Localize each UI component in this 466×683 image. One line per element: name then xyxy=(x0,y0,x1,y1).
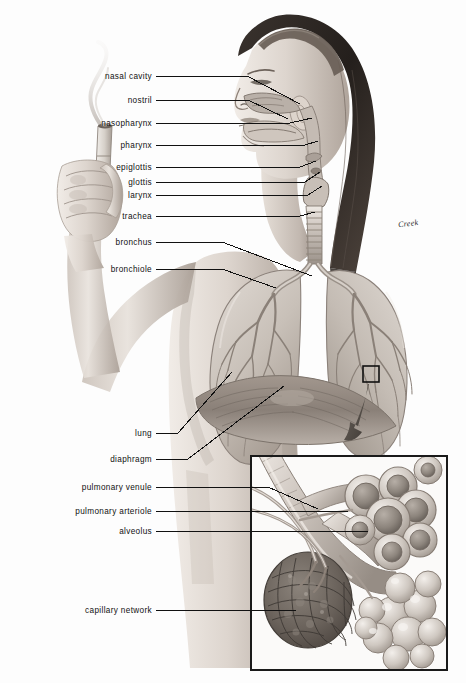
label-larynx: larynx xyxy=(128,191,152,200)
label-diaphragm: diaphragm xyxy=(110,455,152,464)
label-capillary-network: capillary network xyxy=(85,606,152,615)
label-nasal-cavity: nasal cavity xyxy=(105,72,152,81)
label-nostril: nostril xyxy=(128,96,152,105)
label-bronchus: bronchus xyxy=(116,238,152,247)
label-pulmonary-venule: pulmonary venule xyxy=(82,483,152,492)
label-pulmonary-arteriole: pulmonary arteriole xyxy=(75,507,152,516)
label-bronchiole: bronchiole xyxy=(111,265,152,274)
label-pharynx: pharynx xyxy=(120,141,152,150)
label-alveolus: alveolus xyxy=(119,527,152,536)
alveoli-detail-inset xyxy=(251,442,447,671)
label-trachea: trachea xyxy=(122,212,152,221)
label-lung: lung xyxy=(135,429,152,438)
label-nasopharynx: nasopharynx xyxy=(101,119,152,128)
label-epiglottis: epiglottis xyxy=(116,163,152,172)
respiratory-system-figure xyxy=(0,0,466,683)
label-glottis: glottis xyxy=(128,178,152,187)
